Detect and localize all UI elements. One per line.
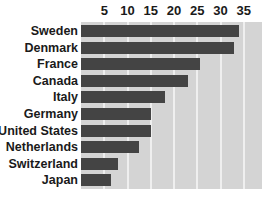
bar-row: Switzerland bbox=[0, 156, 278, 172]
bar bbox=[81, 25, 239, 37]
category-label: Switzerland bbox=[0, 156, 78, 172]
bar bbox=[81, 174, 111, 186]
x-tick-label: 35 bbox=[229, 3, 259, 19]
bar bbox=[81, 58, 200, 70]
bar-row: Sweden bbox=[0, 23, 278, 39]
category-label: Netherlands bbox=[0, 139, 78, 155]
category-label: United States bbox=[0, 123, 78, 139]
bar-rows: SwedenDenmarkFranceCanadaItalyGermanyUni… bbox=[0, 22, 278, 189]
bar-row: France bbox=[0, 56, 278, 72]
bar bbox=[81, 141, 139, 153]
bar bbox=[81, 158, 118, 170]
category-label: France bbox=[0, 56, 78, 72]
category-label: Japan bbox=[0, 172, 78, 188]
bar bbox=[81, 42, 234, 54]
category-label: Italy bbox=[0, 89, 78, 105]
bar bbox=[81, 108, 151, 120]
bar-row: Japan bbox=[0, 172, 278, 188]
bar bbox=[81, 75, 188, 87]
bar-row: Denmark bbox=[0, 40, 278, 56]
x-axis-tick-labels: 5101520253035 bbox=[0, 0, 278, 22]
category-label: Canada bbox=[0, 73, 78, 89]
bar-row: Netherlands bbox=[0, 139, 278, 155]
bar-row: Italy bbox=[0, 89, 278, 105]
category-label: Germany bbox=[0, 106, 78, 122]
bar bbox=[81, 125, 151, 137]
category-label: Sweden bbox=[0, 23, 78, 39]
category-label: Denmark bbox=[0, 40, 78, 56]
horizontal-bar-chart: 5101520253035 SwedenDenmarkFranceCanadaI… bbox=[0, 0, 278, 197]
bar-row: United States bbox=[0, 123, 278, 139]
bar bbox=[81, 91, 165, 103]
bar-row: Canada bbox=[0, 73, 278, 89]
bar-row: Germany bbox=[0, 106, 278, 122]
